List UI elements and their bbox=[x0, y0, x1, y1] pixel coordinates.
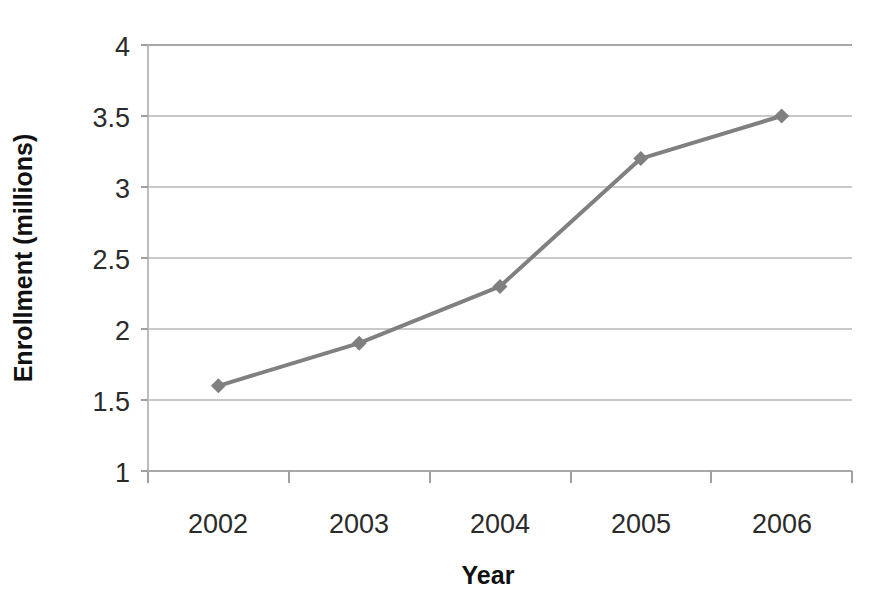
y-tick-label-2: 2 bbox=[115, 316, 130, 346]
y-tick-label-2-5: 2.5 bbox=[92, 245, 130, 275]
x-tick-label-2002: 2002 bbox=[188, 509, 248, 539]
y-tick-label-1: 1 bbox=[115, 458, 130, 488]
y-tick-label-3: 3 bbox=[115, 174, 130, 204]
chart-background bbox=[0, 0, 874, 603]
x-tick-label-2003: 2003 bbox=[329, 509, 389, 539]
chart-canvas: 4 3.5 3 2.5 2 1.5 1 2002 2003 2004 2005 … bbox=[0, 0, 874, 603]
y-axis-title: Enrollment (millions) bbox=[9, 134, 37, 383]
x-tick-label-2004: 2004 bbox=[470, 509, 530, 539]
line-chart: 4 3.5 3 2.5 2 1.5 1 2002 2003 2004 2005 … bbox=[0, 0, 874, 603]
y-tick-label-3-5: 3.5 bbox=[92, 103, 130, 133]
x-tick-label-2006: 2006 bbox=[752, 509, 812, 539]
x-tick-label-2005: 2005 bbox=[611, 509, 671, 539]
x-axis-title: Year bbox=[462, 561, 515, 589]
y-tick-label-1-5: 1.5 bbox=[92, 387, 130, 417]
y-tick-label-4: 4 bbox=[115, 32, 130, 62]
